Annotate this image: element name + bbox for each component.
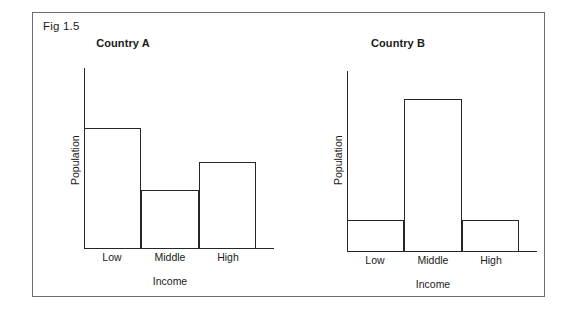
bar-country-a-low [84, 128, 141, 249]
bar-country-b-high [462, 220, 519, 252]
bar-country-a-high [199, 162, 256, 249]
figure-frame: Fig 1.5 Country A Population Low Middle … [32, 12, 545, 297]
y-axis-label-country-a: Population [69, 135, 81, 185]
x-tick-labels-country-b: Low Middle High [347, 254, 537, 268]
x-tick-labels-country-a: Low Middle High [84, 251, 274, 265]
x-tick-country-a-2: High [217, 251, 239, 263]
chart-title-country-a: Country A [3, 37, 243, 49]
chart-panel-country-b: Country B Population Low Middle High Inc… [306, 13, 546, 298]
plot-area-country-b [347, 71, 537, 252]
plot-area-country-a [84, 68, 274, 249]
y-axis-label-country-b: Population [332, 135, 344, 185]
x-tick-country-b-0: Low [365, 254, 384, 266]
x-tick-country-a-0: Low [102, 251, 121, 263]
chart-title-country-b: Country B [278, 37, 518, 49]
x-axis-label-country-b: Income [347, 278, 519, 290]
x-axis-label-country-a: Income [84, 275, 256, 287]
bar-country-b-middle [404, 99, 462, 252]
x-tick-country-a-1: Middle [155, 251, 186, 263]
bar-country-b-low [347, 220, 404, 252]
bar-country-a-middle [141, 190, 199, 249]
x-tick-country-b-1: Middle [418, 254, 449, 266]
chart-panel-country-a: Country A Population Low Middle High Inc… [43, 13, 283, 298]
x-tick-country-b-2: High [480, 254, 502, 266]
